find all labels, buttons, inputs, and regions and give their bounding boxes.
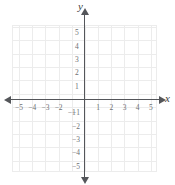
x-tick-label: −3: [41, 104, 49, 112]
x-axis-label: x: [165, 92, 170, 104]
y-axis-label: y: [78, 0, 83, 12]
y-tick-label: −3: [72, 136, 80, 144]
coordinate-plane-figure: y x −5−4−3−2−112345 54321−1−2−3−4−5: [0, 0, 175, 185]
y-tick-label: 3: [75, 56, 79, 64]
y-tick-label: 1: [75, 83, 79, 91]
x-tick-label: −5: [15, 104, 23, 112]
x-tick-label: −2: [55, 104, 63, 112]
y-axis-arrow-down-icon: [81, 177, 89, 184]
y-tick-label: 5: [75, 29, 79, 37]
x-tick-label: 2: [109, 104, 113, 112]
x-tick-label: 1: [96, 104, 100, 112]
y-tick-label: 2: [75, 70, 79, 78]
x-tick-label: 4: [136, 104, 140, 112]
y-tick-label: −2: [72, 123, 80, 131]
y-axis-line: [84, 14, 85, 180]
x-tick-label: −4: [28, 104, 36, 112]
y-tick-label: 4: [75, 43, 79, 51]
x-axis-arrow-left-icon: [4, 96, 11, 104]
y-tick-label: −5: [72, 163, 80, 171]
y-tick-label: −4: [72, 150, 80, 158]
y-tick-label: −1: [72, 110, 80, 118]
x-tick-label: 5: [149, 104, 153, 112]
x-tick-label: 3: [123, 104, 127, 112]
